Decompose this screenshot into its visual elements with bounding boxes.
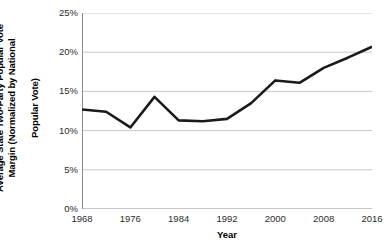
y-axis-tick-label: 15% [46, 86, 78, 96]
plot-area [82, 13, 372, 209]
line-chart-figure: Average State Two-Party Popular Vote Mar… [0, 0, 390, 248]
x-axis-tick-label: 1992 [205, 213, 249, 225]
y-axis-tick-label: 25% [46, 8, 78, 18]
x-axis-tick-label: 2008 [302, 213, 346, 225]
y-axis-tick-label: 20% [46, 47, 78, 57]
data-series-line [82, 47, 372, 128]
x-axis-title: Year [82, 229, 372, 241]
gridlines-group [82, 13, 372, 209]
y-axis-tick-label: 10% [46, 126, 78, 136]
y-axis-title: Average State Two-Party Popular Vote Mar… [0, 0, 34, 216]
y-axis-tick-label: 5% [46, 165, 78, 175]
x-axis-tick-label: 1968 [60, 213, 104, 225]
x-axis-tick-label: 1976 [108, 213, 152, 225]
x-axis-tick-label: 2016 [350, 213, 390, 225]
x-axis-tick-label: 2000 [253, 213, 297, 225]
y-axis-title-line-2: Margin (Normalized by National [6, 24, 18, 192]
x-axis-tick-labels: 1968197619841992200020082016 [82, 213, 372, 229]
y-axis-tick-labels: 0%5%10%15%20%25% [30, 0, 78, 248]
chart-plot-svg [82, 13, 372, 209]
x-axis-tick-label: 1984 [157, 213, 201, 225]
axis-tickmarks-group [82, 13, 372, 209]
y-axis-title-line-1: Average State Two-Party Popular Vote [0, 24, 5, 192]
